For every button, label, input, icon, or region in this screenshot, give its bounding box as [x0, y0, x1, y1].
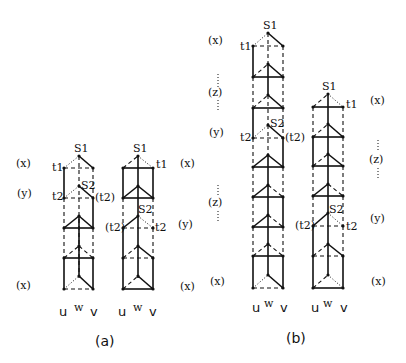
- panel-b-column-1: [251, 31, 284, 289]
- vertex-label-s2: S2: [329, 203, 344, 216]
- vertex-label-t2: t2: [346, 220, 357, 233]
- vertex-label-v: v: [340, 300, 348, 315]
- side-label: (x): [16, 157, 31, 170]
- panel-b-labels: (x) (z) (y) (z) (x) (x) (z) (y) (x) S1 t…: [208, 19, 386, 346]
- vertex-label-t2: t2: [52, 190, 63, 203]
- figure: (x) (y) (x) (x) (y) (x) S1 t1 S2 t2 (t2)…: [0, 0, 406, 363]
- vertex-label-s1: S1: [322, 80, 337, 93]
- side-label: (x): [180, 280, 195, 293]
- panel-a-column-1: [62, 154, 94, 290]
- panel-a-labels: (x) (y) (x) (x) (y) (x) S1 t1 S2 t2 (t2)…: [16, 142, 195, 349]
- panel-caption-a: (a): [95, 333, 115, 349]
- side-label: (x): [16, 279, 31, 292]
- side-label: (x): [210, 275, 225, 288]
- vertex-label-u: u: [252, 300, 260, 315]
- side-label: (y): [370, 212, 385, 225]
- vertex-label-u: u: [59, 304, 67, 319]
- vertex-label-s2: S2: [270, 117, 285, 130]
- vertex-label-t1: t1: [346, 98, 357, 111]
- vertex-label-w: w: [74, 301, 84, 314]
- vertex-label-w: w: [264, 297, 274, 310]
- vertex-label-t2-alt: (t2): [105, 221, 125, 234]
- vertex-label-s1: S1: [74, 142, 89, 155]
- vertex-label-w: w: [133, 301, 143, 314]
- prism-stack-diagram: (x) (y) (x) (x) (y) (x) S1 t1 S2 t2 (t2)…: [0, 0, 406, 363]
- vertex-label-u: u: [311, 300, 319, 315]
- panel-b-column-2: [311, 92, 344, 289]
- side-label: (x): [370, 94, 385, 107]
- vertex-label-s2: S2: [81, 179, 96, 192]
- vertex-label-v: v: [149, 304, 157, 319]
- side-label: (y): [17, 187, 32, 200]
- side-label: (y): [178, 218, 193, 231]
- panel-a-column-2: [121, 154, 154, 290]
- vertex-label-v: v: [90, 304, 98, 319]
- vertex-label-w: w: [323, 297, 333, 310]
- vertex-label-s1: S1: [263, 19, 278, 32]
- side-label: (z): [208, 196, 222, 209]
- vertex-label-u: u: [118, 304, 126, 319]
- vertex-label-t2-alt: (t2): [285, 131, 305, 144]
- vertex-label-t2: t2: [240, 131, 251, 144]
- vertex-label-s2: S2: [138, 203, 153, 216]
- vertex-label-t1: t1: [156, 158, 167, 171]
- panel-caption-b: (b): [286, 330, 306, 346]
- vertex-label-t1: t1: [52, 161, 63, 174]
- side-label: (y): [209, 126, 224, 139]
- vertex-label-v: v: [280, 300, 288, 315]
- vertex-label-s1: S1: [133, 142, 148, 155]
- vertex-label-t2-alt: (t2): [295, 219, 315, 232]
- vertex-label-t2: t2: [155, 221, 166, 234]
- vertex-label-t2-alt: (t2): [95, 191, 115, 204]
- side-label: (z): [369, 153, 383, 166]
- side-label: (x): [371, 275, 386, 288]
- side-label: (x): [180, 157, 195, 170]
- vertex-label-t1: t1: [240, 40, 251, 53]
- side-label: (z): [208, 86, 222, 99]
- side-label: (x): [208, 34, 223, 47]
